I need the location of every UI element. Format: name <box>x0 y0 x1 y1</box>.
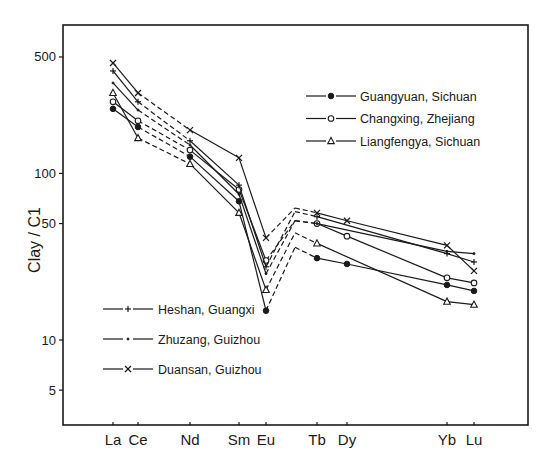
legend-entry-liangfengya-sichuan: Liangfengya, Sichuan <box>306 135 480 149</box>
point-liangfengya-sichuan-nd <box>187 160 194 166</box>
segment-changxing-zhejiang-dy-yb <box>347 236 447 278</box>
point-zhuzang-guizhou-lu <box>473 253 475 255</box>
legend-label: Guangyuan, Sichuan <box>360 90 477 104</box>
legend-entry-guangyuan-sichuan: Guangyuan, Sichuan <box>306 90 477 104</box>
segment-changxing-zhejiang-ce-nd <box>138 121 190 150</box>
point-changxing-zhejiang-nd <box>187 147 193 153</box>
segment-changxing-zhejiang-eu-gd <box>266 221 295 261</box>
segment-zhuzang-guizhou-ce-nd <box>138 110 190 145</box>
legend-entry-changxing-zhejiang: Changxing, Zhejiang <box>306 112 475 126</box>
point-changxing-zhejiang-ce <box>135 118 141 124</box>
segment-liangfengya-sichuan-tb-yb <box>317 243 447 301</box>
segment-changxing-zhejiang-tb-dy <box>317 224 347 237</box>
point-changxing-zhejiang-yb <box>444 275 450 281</box>
legend-label: Zhuzang, Guizhou <box>158 333 260 347</box>
point-guangyuan-sichuan-ce <box>135 124 141 130</box>
point-zhuzang-guizhou-ce <box>137 109 139 111</box>
segment-liangfengya-sichuan-nd-sm <box>190 164 239 213</box>
x-tick-label-sm: Sm <box>228 431 251 448</box>
point-duansan-guizhou-sm <box>236 155 242 161</box>
segment-guangyuan-sichuan-tb-dy <box>317 258 347 264</box>
x-tick-label-yb: Yb <box>438 431 456 448</box>
x-tick-label-dy: Dy <box>338 431 357 448</box>
x-tick-label-la: La <box>105 431 122 448</box>
x-tick-label-eu: Eu <box>257 431 275 448</box>
point-guangyuan-sichuan-tb <box>314 255 320 261</box>
legend-label: Heshan, Guangxi <box>158 303 255 317</box>
point-zhuzang-guizhou-tb <box>316 223 318 225</box>
point-duansan-guizhou-nd <box>187 127 193 133</box>
y-tick-label: 500 <box>34 49 56 64</box>
segment-liangfengya-sichuan-yb-lu <box>447 302 474 305</box>
point-heshan-guangxi-lu <box>471 259 477 265</box>
segment-heshan-guangxi-eu-gd <box>266 212 295 267</box>
point-guangyuan-sichuan-dy <box>344 261 350 267</box>
point-zhuzang-guizhou-sm <box>238 193 240 195</box>
point-zhuzang-guizhou-eu <box>265 273 267 275</box>
plot-frame <box>63 25 528 425</box>
point-zhuzang-guizhou-yb <box>446 250 448 252</box>
x-axis: LaCeNdSmEuTbDyYbLu <box>105 422 483 448</box>
y-tick-label: 10 <box>42 333 56 348</box>
legend-marker-duansan-guizhou <box>125 366 131 372</box>
point-duansan-guizhou-ce <box>135 90 141 96</box>
segment-guangyuan-sichuan-eu-gd <box>266 247 295 310</box>
legend-entry-heshan-guangxi: Heshan, Guangxi <box>103 303 255 317</box>
segment-duansan-guizhou-la-ce <box>113 63 138 93</box>
x-tick-label-lu: Lu <box>466 431 483 448</box>
segment-heshan-guangxi-ce-nd <box>138 102 190 141</box>
y-tick-label: 5 <box>49 383 56 398</box>
segment-duansan-guizhou-nd-sm <box>190 130 239 158</box>
segment-liangfengya-sichuan-la-ce <box>113 93 138 138</box>
series-zhuzang-guizhou <box>112 82 475 275</box>
y-axis-label: Clay / C1 <box>26 207 43 273</box>
legend-bottom-left: Heshan, GuangxiZhuzang, GuizhouDuansan, … <box>103 303 262 377</box>
segment-zhuzang-guizhou-sm-eu <box>239 194 266 273</box>
segment-zhuzang-guizhou-eu-gd <box>266 221 295 274</box>
segment-liangfengya-sichuan-gd-tb <box>295 233 317 244</box>
segment-guangyuan-sichuan-dy-yb <box>347 264 447 285</box>
legend-marker-zhuzang-guizhou <box>127 338 129 340</box>
segment-duansan-guizhou-tb-dy <box>317 213 347 221</box>
point-duansan-guizhou-lu <box>471 268 477 274</box>
legend-entry-duansan-guizhou: Duansan, Guizhou <box>103 363 262 377</box>
x-tick-label-tb: Tb <box>308 431 326 448</box>
point-guangyuan-sichuan-lu <box>471 288 477 294</box>
legend-label: Duansan, Guizhou <box>158 363 262 377</box>
point-zhuzang-guizhou-la <box>112 82 114 84</box>
point-changxing-zhejiang-la <box>110 99 116 105</box>
segment-guangyuan-sichuan-gd-tb <box>295 247 317 258</box>
legend-label: Changxing, Zhejiang <box>360 112 475 126</box>
segment-duansan-guizhou-yb-lu <box>447 245 474 271</box>
legend-top-right: Guangyuan, SichuanChangxing, ZhejiangLia… <box>306 90 480 149</box>
legend-marker-liangfengya-sichuan <box>328 137 335 143</box>
point-guangyuan-sichuan-yb <box>444 282 450 288</box>
point-liangfengya-sichuan-eu <box>263 286 270 292</box>
legend-entry-zhuzang-guizhou: Zhuzang, Guizhou <box>103 333 260 347</box>
segment-zhuzang-guizhou-yb-lu <box>447 251 474 253</box>
x-tick-label-ce: Ce <box>128 431 147 448</box>
segment-zhuzang-guizhou-nd-sm <box>190 145 239 194</box>
point-liangfengya-sichuan-tb <box>314 240 321 246</box>
segment-zhuzang-guizhou-tb-yb <box>317 224 447 252</box>
point-duansan-guizhou-eu <box>263 235 269 241</box>
point-changxing-zhejiang-dy <box>344 233 350 239</box>
y-tick-label: 100 <box>34 166 56 181</box>
point-liangfengya-sichuan-ce <box>135 134 142 140</box>
point-guangyuan-sichuan-la <box>110 106 116 112</box>
segment-zhuzang-guizhou-gd-tb <box>295 221 317 224</box>
legend-marker-changxing-zhejiang <box>328 116 334 122</box>
segment-duansan-guizhou-eu-gd <box>266 208 295 238</box>
segment-changxing-zhejiang-yb-lu <box>447 278 474 283</box>
segment-guangyuan-sichuan-yb-lu <box>447 285 474 291</box>
legend-label: Liangfengya, Sichuan <box>360 135 480 149</box>
ree-pattern-chart: 51050100500 LaCeNdSmEuTbDyYbLu Clay / C1… <box>0 0 552 468</box>
legend-marker-guangyuan-sichuan <box>328 93 334 99</box>
y-tick-label: 50 <box>42 216 56 231</box>
point-changxing-zhejiang-lu <box>471 280 477 286</box>
point-zhuzang-guizhou-nd <box>189 144 191 146</box>
point-duansan-guizhou-la <box>110 60 116 66</box>
legend-marker-heshan-guangxi <box>125 306 131 312</box>
series-changxing-zhejiang <box>110 99 477 286</box>
segment-liangfengya-sichuan-ce-nd <box>138 138 190 164</box>
